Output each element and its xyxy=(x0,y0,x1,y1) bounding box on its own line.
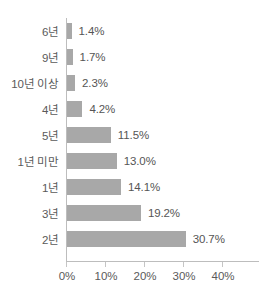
category-label: 10년 이상 xyxy=(11,75,59,91)
x-axis-tick-label: 40% xyxy=(211,270,234,282)
bar-row: 2년 30.7% xyxy=(0,226,271,252)
bar-row: 3년 19.2% xyxy=(0,200,271,226)
bar-container xyxy=(66,231,186,247)
bar-container xyxy=(66,101,82,117)
bar-row: 1년 14.1% xyxy=(0,174,271,200)
bar-row: 4년 4.2% xyxy=(0,96,271,122)
bar-row: 9년 1.7% xyxy=(0,44,271,70)
bar xyxy=(66,205,141,221)
bar-container xyxy=(66,153,117,169)
x-axis-tick-label: 30% xyxy=(172,270,195,282)
bar-container xyxy=(66,75,75,91)
y-axis-line xyxy=(66,18,67,261)
bar xyxy=(66,101,82,117)
bar xyxy=(66,231,186,247)
x-axis-tick xyxy=(222,262,223,267)
category-label: 1년 미만 xyxy=(17,153,59,169)
category-label: 5년 xyxy=(42,127,59,143)
category-label: 4년 xyxy=(42,101,59,117)
bar-row: 5년 11.5% xyxy=(0,122,271,148)
x-axis-tick-label: 10% xyxy=(94,270,117,282)
value-label: 30.7% xyxy=(193,233,225,245)
bar-row: 10년 이상 2.3% xyxy=(0,70,271,96)
bar-container xyxy=(66,127,111,143)
x-axis-tick-label: 0% xyxy=(59,270,76,282)
value-label: 13.0% xyxy=(124,155,156,167)
value-label: 1.7% xyxy=(80,51,106,63)
value-label: 1.4% xyxy=(79,25,105,37)
x-axis-tick xyxy=(105,262,106,267)
bar xyxy=(66,75,75,91)
bar-row: 1년 미만 13.0% xyxy=(0,148,271,174)
x-axis-tick xyxy=(66,262,67,267)
value-label: 4.2% xyxy=(89,103,115,115)
category-label: 1년 xyxy=(42,179,59,195)
x-axis-tick xyxy=(183,262,184,267)
x-axis-tick xyxy=(144,262,145,267)
bar-container xyxy=(66,205,141,221)
value-label: 11.5% xyxy=(118,129,149,141)
bar xyxy=(66,179,121,195)
bar xyxy=(66,127,111,143)
category-label: 6년 xyxy=(42,23,59,39)
x-axis-tick-label: 20% xyxy=(133,270,156,282)
bar xyxy=(66,153,117,169)
plot-area: 6년 1.4% 9년 1.7% 10년 이상 2.3% 4년 4.2% 5년 1… xyxy=(0,0,271,302)
bar-chart: 6년 1.4% 9년 1.7% 10년 이상 2.3% 4년 4.2% 5년 1… xyxy=(0,0,271,302)
category-label: 3년 xyxy=(42,205,59,221)
value-label: 2.3% xyxy=(82,77,108,89)
value-label: 19.2% xyxy=(148,207,180,219)
bar-row: 6년 1.4% xyxy=(0,18,271,44)
x-axis-line xyxy=(66,261,259,262)
category-label: 9년 xyxy=(42,49,59,65)
bar-container xyxy=(66,179,121,195)
category-label: 2년 xyxy=(42,231,59,247)
value-label: 14.1% xyxy=(128,181,160,193)
